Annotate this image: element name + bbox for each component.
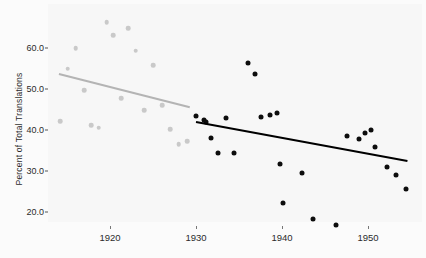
y-tick-mark <box>45 212 48 213</box>
x-tick-mark <box>110 226 111 229</box>
data-point-late <box>194 114 199 119</box>
data-point-late <box>216 150 221 155</box>
data-point-late <box>372 144 377 149</box>
x-tick-mark <box>196 226 197 229</box>
scatter-chart: Percent of Total Translations 20.030.040… <box>0 0 426 258</box>
data-point-late <box>310 216 315 221</box>
data-point-late <box>280 201 285 206</box>
x-tick-mark <box>282 226 283 229</box>
data-point-early <box>111 33 116 38</box>
data-point-early <box>58 119 63 124</box>
data-point-late <box>369 128 374 133</box>
data-point-late <box>334 223 339 228</box>
data-point-late <box>267 113 272 118</box>
x-tick-label: 1930 <box>185 232 206 243</box>
data-point-late <box>224 115 229 120</box>
y-tick-label: 40.0 <box>26 125 44 135</box>
data-point-early <box>73 46 78 51</box>
y-tick-mark <box>45 130 48 131</box>
plot-area-background <box>48 4 422 222</box>
data-point-early <box>160 103 165 108</box>
data-point-early <box>66 66 71 71</box>
y-tick-mark <box>45 89 48 90</box>
data-point-late <box>231 151 236 156</box>
y-axis-ticks: 20.030.040.050.060.0 <box>0 0 44 258</box>
y-tick-mark <box>45 171 48 172</box>
y-tick-label: 60.0 <box>26 43 44 53</box>
data-point-early <box>168 127 173 132</box>
data-point-late <box>403 187 408 192</box>
x-tick-mark <box>368 226 369 229</box>
data-point-late <box>357 137 362 142</box>
data-point-early <box>185 139 190 144</box>
x-tick-label: 1940 <box>271 232 292 243</box>
data-point-early <box>126 26 131 31</box>
data-point-early <box>89 123 94 128</box>
data-point-early <box>151 63 156 68</box>
y-tick-label: 20.0 <box>26 207 44 217</box>
y-tick-label: 50.0 <box>26 84 44 94</box>
data-point-late <box>362 131 367 136</box>
x-tick-label: 1950 <box>357 232 378 243</box>
data-point-late <box>384 164 389 169</box>
data-point-late <box>299 170 304 175</box>
data-point-late <box>394 173 399 178</box>
data-point-early <box>119 96 124 101</box>
data-point-late <box>278 162 283 167</box>
data-point-early <box>97 125 102 130</box>
y-tick-label: 30.0 <box>26 166 44 176</box>
data-point-late <box>245 60 250 65</box>
data-point-late <box>209 136 214 141</box>
data-point-early <box>134 49 139 54</box>
data-point-early <box>142 108 147 113</box>
data-point-early <box>104 20 109 25</box>
x-tick-label: 1920 <box>99 232 120 243</box>
data-point-late <box>258 114 263 119</box>
data-point-early <box>177 142 182 147</box>
data-point-early <box>82 88 87 93</box>
data-point-late <box>253 71 258 76</box>
y-tick-mark <box>45 48 48 49</box>
data-point-late <box>274 111 279 116</box>
data-point-late <box>345 133 350 138</box>
